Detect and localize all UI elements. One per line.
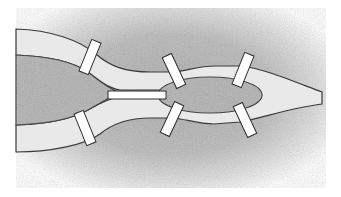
bridge-3 [108,91,166,99]
bridges-diagram [0,0,341,197]
